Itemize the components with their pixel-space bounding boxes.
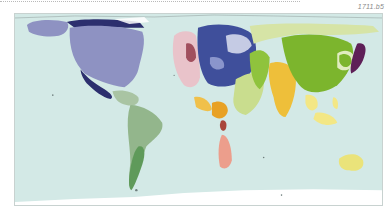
island-dot [135, 189, 137, 191]
region-southeast-asia [305, 95, 317, 111]
figure-id-label: 1711.b5 [358, 3, 384, 10]
island-dot [52, 94, 54, 96]
region-alaska [27, 20, 68, 37]
region-western-europe [173, 31, 200, 87]
region-central-america [112, 90, 138, 105]
region-philippines [332, 97, 338, 109]
island-dot [281, 194, 283, 196]
region-japan [351, 43, 366, 73]
island-dot [173, 75, 174, 76]
region-north-africa [194, 97, 212, 111]
cartogram-map [14, 13, 383, 206]
world-cartogram-svg [15, 14, 382, 205]
region-southern-africa [219, 135, 232, 169]
region-antarctica [15, 189, 382, 205]
region-north-america [70, 26, 144, 87]
region-indonesia [313, 113, 337, 125]
region-australia [339, 154, 364, 171]
region-central-africa [220, 120, 227, 130]
region-west-africa [212, 102, 228, 119]
island-dot [263, 157, 265, 159]
arctic-coast-line [15, 15, 382, 18]
top-dotted-rule [0, 1, 300, 2]
